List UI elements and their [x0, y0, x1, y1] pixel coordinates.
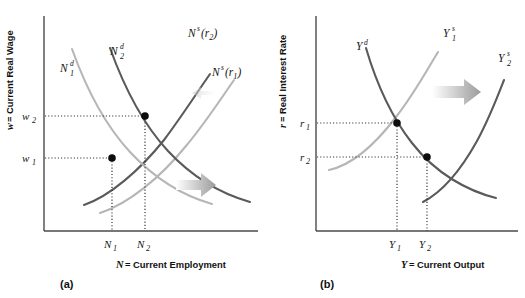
panel-b-ytick-r2: r 2	[300, 151, 310, 166]
panel-b-label-output-supply-1: Y s 1	[443, 24, 456, 43]
x-axis-text: = Current Output	[409, 259, 484, 270]
panel-a-label: (a)	[60, 278, 74, 290]
x-axis-var: N	[115, 259, 124, 270]
xtick-y2-base: Y	[419, 238, 427, 250]
panel-a-supply-shift-arrow	[192, 87, 216, 99]
ytick-r2-sub: 2	[306, 157, 310, 166]
label-n1d-base: N	[59, 62, 69, 74]
xtick-y1-base: Y	[389, 238, 397, 250]
label-yd-base: Y	[356, 40, 364, 52]
label-y1s-sub: 1	[452, 34, 456, 43]
y-axis-text: = Current Real Wage	[4, 30, 15, 122]
panel-a: N d 1 N d 2 N s (r2) N s (r1) w	[4, 16, 258, 290]
label-y2s-sup: s	[507, 49, 510, 58]
curve-labor-supply-r1	[100, 80, 234, 213]
label-y2s-base: Y	[498, 52, 506, 64]
label-y1s-base: Y	[443, 27, 451, 39]
label-n2d-sup: d	[120, 42, 124, 51]
label-yd-sup: d	[364, 38, 368, 47]
curve-output-supply-1	[329, 52, 438, 170]
xtick-n2-base: N	[136, 238, 145, 250]
panel-a-label-labor-demand-2: N d 2	[109, 42, 124, 61]
panel-a-equilibrium-1-point	[108, 154, 116, 162]
panel-b-xtick-y1: Y 1	[389, 238, 401, 253]
panel-b-xtick-y2: Y 2	[419, 238, 431, 253]
panel-a-xtick-n2: N 2	[136, 238, 150, 253]
ytick-r1-sub: 1	[306, 123, 310, 132]
y-axis-var: r	[277, 123, 288, 128]
label-n2d-sub: 2	[120, 52, 124, 61]
label-nsr1-base: N	[211, 66, 221, 78]
label-nsr1-sup: s	[221, 63, 224, 72]
panel-a-xtick-n1: N 1	[103, 238, 117, 253]
panel-a-ytick-w1: w 1	[22, 152, 36, 167]
x-axis-text: = Current Employment	[125, 259, 226, 270]
label-n1d-sup: d	[70, 59, 74, 68]
panel-b-equilibrium-2-point	[423, 153, 431, 161]
xtick-y1-sub: 1	[397, 244, 401, 253]
panel-b: Y d Y s 1 Y s 2 r 1 r 2	[277, 16, 518, 290]
ytick-w2-base: w	[22, 110, 30, 122]
panel-a-label-labor-supply-r1: N s (r1)	[211, 63, 241, 81]
label-nsr2-sup: s	[197, 24, 200, 33]
panel-a-ytick-w2: w 2	[22, 110, 36, 125]
x-axis-var: Y	[401, 259, 409, 270]
xtick-n1-base: N	[103, 238, 112, 250]
curve-output-supply-2	[423, 80, 504, 202]
curve-output-demand	[366, 48, 496, 198]
label-nsr2-base: N	[187, 27, 197, 39]
label-nsr1-paren: (r1)	[225, 66, 241, 81]
label-y2s-sub: 2	[507, 59, 511, 68]
panel-b-label: (b)	[320, 278, 334, 290]
xtick-n1-sub: 1	[113, 244, 117, 253]
ytick-r1-base: r	[300, 117, 305, 129]
ytick-w1-base: w	[22, 152, 30, 164]
panel-b-supply-shift-arrow	[432, 79, 481, 105]
label-n2d-base: N	[109, 45, 119, 57]
ytick-r2-base: r	[300, 151, 305, 163]
panel-a-label-labor-supply-r2: N s (r2)	[187, 24, 217, 42]
economics-diagram: N d 1 N d 2 N s (r2) N s (r1) w	[0, 0, 525, 298]
panel-b-y-axis-title: r = Real Interest Rate	[277, 35, 288, 128]
label-nsr2-paren: (r2)	[201, 27, 217, 42]
panel-b-x-axis-title: Y = Current Output	[401, 259, 484, 270]
figure-container: N d 1 N d 2 N s (r2) N s (r1) w	[0, 0, 525, 298]
panel-a-x-axis-title: N = Current Employment	[115, 259, 226, 270]
y-axis-var: w	[4, 123, 15, 130]
xtick-y2-sub: 2	[427, 244, 431, 253]
label-n1d-sub: 1	[70, 69, 74, 78]
xtick-n2-sub: 2	[146, 244, 150, 253]
y-axis-text: = Real Interest Rate	[277, 35, 288, 122]
ytick-w1-sub: 1	[32, 158, 36, 167]
label-y1s-sup: s	[452, 24, 455, 33]
panel-b-equilibrium-1-point	[393, 119, 401, 127]
panel-a-label-labor-demand-1: N d 1	[59, 59, 74, 78]
panel-a-equilibrium-2-point	[141, 112, 149, 120]
panel-b-ytick-r1: r 1	[300, 117, 310, 132]
ytick-w2-sub: 2	[32, 116, 36, 125]
panel-a-y-axis-title: w = Current Real Wage	[4, 30, 15, 130]
panel-b-label-output-supply-2: Y s 2	[498, 49, 511, 68]
